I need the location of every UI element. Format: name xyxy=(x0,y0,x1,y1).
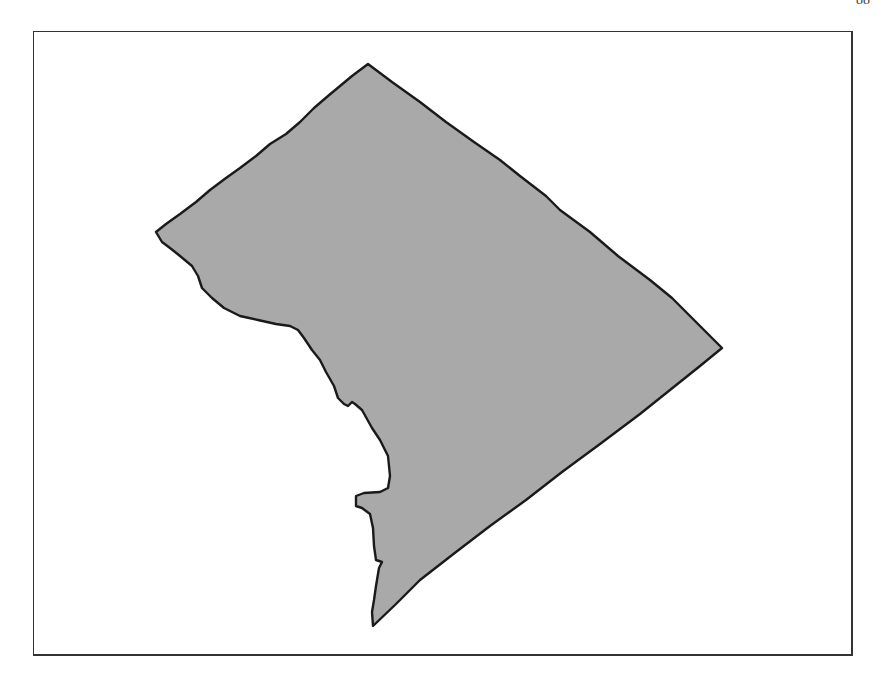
dc-boundary-map xyxy=(0,0,880,687)
dc-boundary-shape xyxy=(156,64,722,626)
